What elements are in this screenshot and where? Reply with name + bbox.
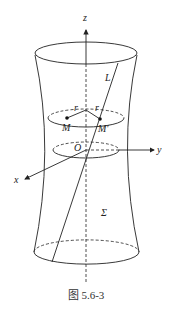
right-profile bbox=[127, 55, 139, 252]
line-l-label: L bbox=[104, 72, 111, 83]
point-m-label: M bbox=[61, 122, 71, 133]
surface-label: Σ bbox=[100, 207, 107, 218]
radius-right-label: r bbox=[95, 102, 99, 113]
line-l bbox=[52, 63, 118, 262]
left-profile bbox=[34, 55, 45, 252]
point-m-prime bbox=[98, 117, 102, 121]
figure-caption: 图 5.6-3 bbox=[68, 289, 105, 301]
bottom-ellipse-front bbox=[34, 252, 139, 264]
bottom-ellipse-back bbox=[34, 240, 139, 252]
hyperboloid-diagram: z y x O L M M' r r Σ 图 5.6-3 bbox=[0, 0, 173, 314]
x-axis-label: x bbox=[13, 174, 19, 185]
y-axis-label: y bbox=[156, 144, 162, 155]
x-axis bbox=[25, 150, 86, 179]
z-axis-label: z bbox=[82, 12, 87, 23]
point-m-prime-label: M' bbox=[97, 123, 109, 134]
radius-left-label: r bbox=[74, 102, 78, 113]
point-m bbox=[65, 116, 69, 120]
origin-label: O bbox=[74, 142, 81, 153]
